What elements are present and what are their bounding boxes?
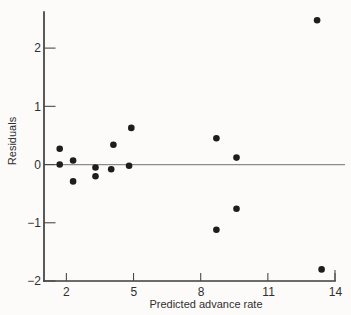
x-tick-label-8: 8 (198, 285, 205, 299)
y-tick-label-1: 1 (34, 100, 41, 114)
data-point (56, 146, 63, 153)
x-tick-label-2: 2 (63, 285, 70, 299)
data-points (56, 17, 325, 273)
x-tick-label-5: 5 (130, 285, 137, 299)
residual-scatter-plot-figure: 2 1 0 −1 −2 2 5 8 11 14 Predicted advanc… (0, 0, 351, 315)
scatter-plot-canvas: 2 1 0 −1 −2 2 5 8 11 14 Predicted advanc… (0, 0, 351, 315)
data-point (92, 173, 99, 180)
y-axis-title: Residuals (6, 116, 18, 165)
data-point (213, 135, 220, 142)
x-axis-title: Predicted advance rate (149, 298, 262, 310)
data-point (318, 266, 325, 273)
y-tick-label-2: 2 (34, 41, 41, 55)
data-point (108, 166, 115, 173)
y-tick-label-neg1: −1 (27, 216, 41, 230)
data-point (314, 17, 321, 24)
data-point (213, 227, 220, 234)
data-point (70, 157, 77, 164)
data-point (233, 154, 240, 161)
y-tick-label-0: 0 (34, 158, 41, 172)
data-point (110, 142, 117, 149)
x-tick-label-14: 14 (329, 285, 343, 299)
data-point (128, 125, 135, 132)
y-tick-label-neg2: −2 (27, 274, 41, 288)
x-tick-label-11: 11 (262, 285, 275, 299)
data-point (56, 161, 63, 168)
data-point (92, 164, 99, 171)
data-point (233, 206, 240, 213)
data-point (126, 162, 133, 169)
data-point (70, 178, 77, 185)
